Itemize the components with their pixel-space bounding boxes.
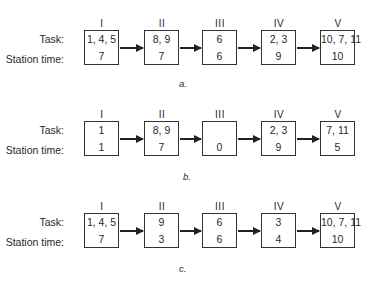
station-box-i: 1, 4, 5 7 [84,30,119,65]
station-box-iii: 6 6 [202,30,237,65]
station-time: 6 [203,50,236,62]
station-tasks: 1, 4, 5 [85,216,118,228]
flow-arrow [180,47,201,49]
flow-arrow [120,138,143,140]
station-tasks: 8, 9 [145,124,178,136]
station-label-i: I [84,201,120,212]
station-label-iii: III [202,109,238,120]
station-label-v: V [320,18,356,29]
diagram-a: Task: Station time: I II III IV V 1, 4, … [0,20,372,112]
station-box-i: 1, 4, 5 7 [84,213,119,248]
station-label-ii: II [144,201,180,212]
station-tasks: 6 [203,33,236,45]
station-label-v: V [320,201,356,212]
station-time: 0 [203,141,236,153]
station-tasks: 6 [203,216,236,228]
station-time: 5 [321,141,354,153]
station-label-ii: II [144,109,180,120]
station-label-iv: IV [261,109,297,120]
station-time: 9 [262,141,295,153]
flow-arrow [120,47,143,49]
station-tasks: 8, 9 [145,33,178,45]
station-label-iv: IV [261,201,297,212]
task-label: Task: [39,216,64,228]
flow-arrow [297,230,319,232]
station-box-i: 1 1 [84,121,119,156]
station-label-i: I [84,109,120,120]
diagram-b: Task: Station time: I II III IV V 1 1 8,… [0,111,372,203]
flow-arrow [297,138,319,140]
station-label-iv: IV [261,18,297,29]
station-label-v: V [320,109,356,120]
station-box-ii: 8, 9 7 [144,121,179,156]
station-box-v: 10, 7, 11 10 [320,213,355,248]
station-tasks: 7, 11 [321,124,354,136]
station-time: 7 [145,141,178,153]
station-time-label: Station time: [6,144,64,156]
diagram-c: Task: Station time: I II III IV V 1, 4, … [0,203,372,284]
station-box-iii: 0 [202,121,237,156]
station-tasks: 10, 7, 11 [321,33,354,45]
station-time: 1 [85,141,118,153]
flow-arrow [238,138,260,140]
flow-arrow [238,47,260,49]
station-box-iv: 2, 3 9 [261,30,296,65]
station-time-label: Station time: [6,236,64,248]
station-box-v: 10, 7, 11 10 [320,30,355,65]
station-label-iii: III [202,18,238,29]
station-time-label: Station time: [6,53,64,65]
station-time: 4 [262,233,295,245]
task-label: Task: [39,124,64,136]
station-time: 6 [203,233,236,245]
caption: b. [183,171,191,182]
station-tasks: 9 [145,216,178,228]
station-box-ii: 9 3 [144,213,179,248]
station-tasks: 2, 3 [262,33,295,45]
station-tasks: 1, 4, 5 [85,33,118,45]
task-label: Task: [39,33,64,45]
station-label-i: I [84,18,120,29]
station-box-ii: 8, 9 7 [144,30,179,65]
station-tasks: 10, 7, 11 [321,216,354,228]
station-tasks: 1 [85,124,118,136]
flow-arrow [297,47,319,49]
station-time: 7 [85,233,118,245]
flow-arrow [238,230,260,232]
station-box-v: 7, 11 5 [320,121,355,156]
station-time: 9 [262,50,295,62]
flow-arrow [180,138,201,140]
station-label-iii: III [202,201,238,212]
flow-arrow [180,230,201,232]
caption: c. [179,263,186,274]
station-box-iv: 3 4 [261,213,296,248]
station-box-iv: 2, 3 9 [261,121,296,156]
station-tasks: 2, 3 [262,124,295,136]
station-tasks: 3 [262,216,295,228]
station-time: 10 [321,233,354,245]
station-time: 7 [85,50,118,62]
caption: a. [179,78,187,89]
station-time: 10 [321,50,354,62]
flow-arrow [120,230,143,232]
station-time: 7 [145,50,178,62]
station-time: 3 [145,233,178,245]
station-label-ii: II [144,18,180,29]
station-box-iii: 6 6 [202,213,237,248]
